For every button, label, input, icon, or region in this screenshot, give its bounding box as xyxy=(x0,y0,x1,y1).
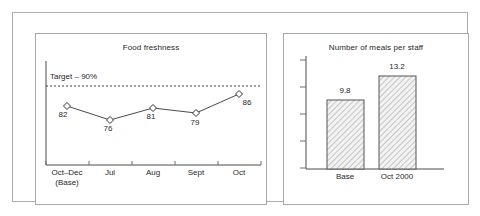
bar-chart-plot-area: 9.8 13.2 Base Oct 2000 xyxy=(284,34,468,204)
target-line-label: Target – 90% xyxy=(50,72,97,81)
figure-root: Food freshness xyxy=(0,0,480,216)
bar-value-label-oct-2000: 13.2 xyxy=(389,62,405,71)
line-chart-plot-area: Target – 90% 82 76 81 79 86 Oct–Dec (Bas… xyxy=(36,34,266,204)
x-axis-ticks xyxy=(46,161,261,165)
x-category-jul: Jul xyxy=(105,168,115,178)
bar-category-oct-2000: Oct 2000 xyxy=(381,172,413,181)
x-category-line1: Sept xyxy=(188,168,204,178)
data-point-marker xyxy=(236,91,243,98)
x-category-line1: Jul xyxy=(105,168,115,178)
data-point-marker xyxy=(64,103,71,110)
x-category-oct-dec-base: Oct–Dec (Base) xyxy=(51,168,82,188)
bar-category-base: Base xyxy=(336,172,354,181)
data-point-label-oct: 86 xyxy=(243,98,252,107)
x-category-line1: Aug xyxy=(146,168,160,178)
x-category-aug: Aug xyxy=(146,168,160,178)
x-category-line2: (Base) xyxy=(51,178,82,188)
bar-base xyxy=(327,100,364,169)
outer-frame: Food freshness xyxy=(12,12,468,202)
bar-value-label-base: 9.8 xyxy=(339,86,350,95)
y-axis-ticks xyxy=(300,60,306,168)
bar-chart-svg xyxy=(284,34,470,206)
chart-panel-food-freshness: Food freshness xyxy=(35,33,267,205)
data-point-marker xyxy=(107,117,114,124)
data-point-label-aug: 81 xyxy=(147,112,156,121)
x-category-sept: Sept xyxy=(188,168,204,178)
data-point-marker xyxy=(150,105,157,112)
x-category-line1: Oct–Dec xyxy=(51,168,82,178)
bar-oct-2000 xyxy=(379,76,416,169)
x-category-oct: Oct xyxy=(233,168,245,178)
chart-panel-meals-per-staff: Number of meals per staff xyxy=(283,33,469,205)
data-point-label-oct-dec-base: 82 xyxy=(59,110,68,119)
data-point-marker xyxy=(193,110,200,117)
data-point-label-jul: 76 xyxy=(104,124,113,133)
data-point-label-sept: 79 xyxy=(191,118,200,127)
x-category-line1: Oct xyxy=(233,168,245,178)
